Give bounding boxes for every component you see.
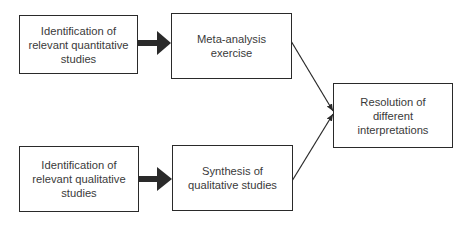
thick-arrow-qual-to-synthesis — [138, 167, 172, 191]
node-label: Identification of relevant quantitative … — [28, 24, 128, 66]
node-label: Resolution of different interpretations — [358, 95, 429, 137]
thick-arrow-quant-to-meta — [138, 31, 171, 55]
arrow-synthesis-to-resolution — [292, 114, 333, 181]
node-synthesis: Synthesis of qualitative studies — [172, 145, 293, 211]
arrow-meta-to-resolution — [291, 41, 333, 111]
node-quantitative-identification: Identification of relevant quantitative … — [19, 15, 138, 74]
node-label: Synthesis of qualitative studies — [188, 164, 277, 192]
node-label: Identification of relevant qualitative s… — [32, 158, 125, 200]
node-label: Meta-analysis exercise — [197, 32, 266, 60]
node-qualitative-identification: Identification of relevant qualitative s… — [19, 146, 139, 212]
node-meta-analysis: Meta-analysis exercise — [171, 13, 292, 79]
node-resolution: Resolution of different interpretations — [333, 83, 453, 148]
